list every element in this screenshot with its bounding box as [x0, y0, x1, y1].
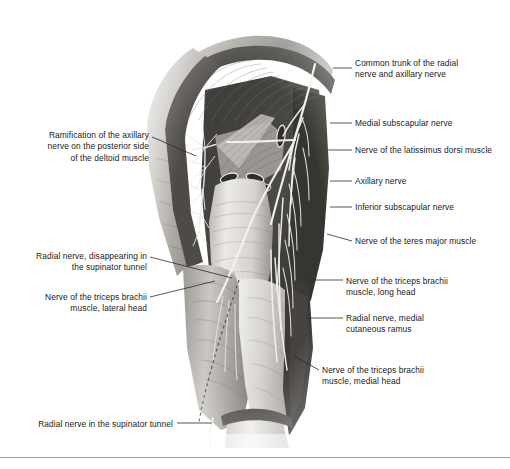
- label-nerve-triceps-brachii-medial-head: Nerve of the triceps brachii muscle, med…: [322, 365, 424, 388]
- footer-rule: [0, 457, 510, 458]
- label-inferior-subscapular-nerve: Inferior subscapular nerve: [355, 202, 454, 213]
- page-bleed-text: [8, 460, 228, 468]
- label-nerve-triceps-brachii-long-head: Nerve of the triceps brachii muscle, lon…: [346, 276, 448, 299]
- label-radial-nerve-medial-cutaneous-ramus: Radial nerve, medial cutaneous ramus: [346, 313, 424, 336]
- label-nerve-triceps-brachii-lateral-head: Nerve of the triceps brachii muscle, lat…: [45, 292, 147, 315]
- label-ramification-axillary-nerve-deltoid: Ramification of the axillary nerve on th…: [48, 130, 149, 164]
- label-radial-nerve-disappearing-supinator-tunnel: Radial nerve, disappearing in the supina…: [36, 251, 147, 274]
- label-medial-subscapular-nerve: Medial subscapular nerve: [355, 118, 452, 129]
- label-axillary-nerve: Axillary nerve: [355, 176, 406, 187]
- label-nerve-teres-major-muscle: Nerve of the teres major muscle: [355, 236, 476, 247]
- label-common-trunk-radial-axillary-nerve: Common trunk of the radial nerve and axi…: [355, 58, 458, 81]
- label-nerve-latissimus-dorsi-muscle: Nerve of the latissimus dorsi muscle: [355, 145, 492, 156]
- label-radial-nerve-in-supinator-tunnel: Radial nerve in the supinator tunnel: [38, 419, 173, 430]
- anatomy-plate-page: Common trunk of the radial nerve and axi…: [0, 0, 510, 469]
